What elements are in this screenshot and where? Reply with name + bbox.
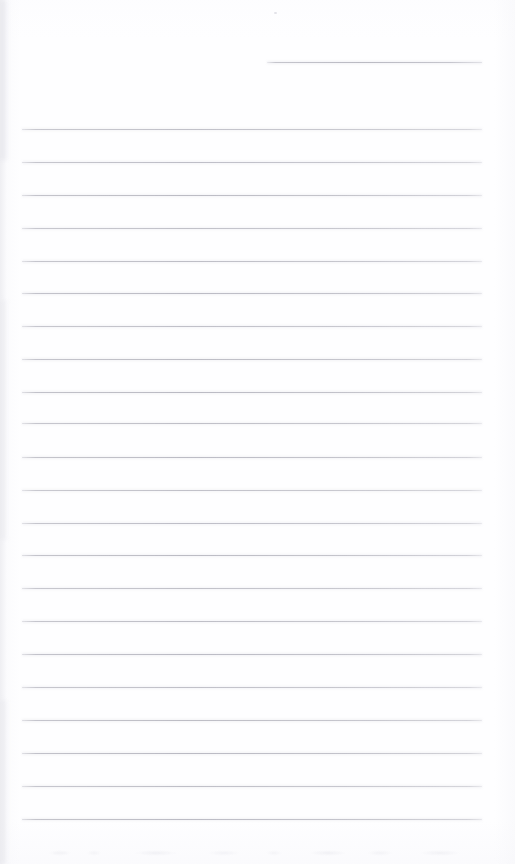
ruled-line	[22, 423, 482, 424]
ruled-line	[22, 228, 482, 229]
scan-edge-shadow-bottom	[0, 700, 9, 864]
ruled-line	[22, 819, 482, 820]
scan-speck-icon	[274, 12, 277, 14]
ruled-line	[22, 490, 482, 491]
bleed-through-ghosting	[28, 846, 485, 859]
ruled-line	[22, 195, 482, 196]
scanned-page	[0, 0, 515, 864]
ruled-line	[22, 392, 482, 393]
ruled-line	[22, 261, 482, 262]
scan-edge-shadow-middle	[0, 300, 9, 540]
ruled-line	[22, 326, 482, 327]
ruled-line	[22, 654, 482, 655]
ruled-line	[22, 687, 482, 688]
ruled-line	[22, 457, 482, 458]
ruled-line	[22, 786, 482, 787]
header-date-rule	[267, 62, 482, 63]
ruled-line	[22, 129, 482, 130]
ruled-line	[22, 555, 482, 556]
ruled-line	[22, 621, 482, 622]
ruled-line	[22, 523, 482, 524]
ruled-line	[22, 753, 482, 754]
scan-edge-shadow-top	[0, 0, 9, 160]
ruled-line	[22, 293, 482, 294]
ruled-line	[22, 720, 482, 721]
ruled-line	[22, 588, 482, 589]
ruled-line	[22, 162, 482, 163]
ruled-line	[22, 359, 482, 360]
